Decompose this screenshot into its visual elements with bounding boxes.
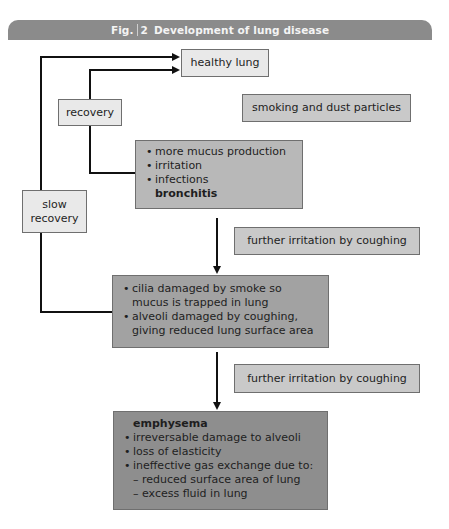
further-irritation-box-2: further irritation by coughing [234,364,420,393]
bronchitis-box: more mucus production irritation infecti… [135,140,303,209]
bronchitis-to-cilia-line [216,218,218,268]
emphysema-subitem: – reduced surface area of lung [124,473,321,487]
figure-label: Fig. [111,24,134,36]
arrow-to-cilia [213,266,221,274]
recovery-box: recovery [58,99,122,126]
cilia-item: alveoli damaged by coughing, giving redu… [123,310,320,338]
bronchitis-item: infections [146,173,302,187]
arrow-to-emphysema [213,402,221,410]
bronchitis-item: irritation [146,159,302,173]
slow-recovery-line2: recovery [30,212,78,226]
smoking-label: smoking and dust particles [252,101,401,115]
smoking-box: smoking and dust particles [242,94,411,122]
slow-recovery-connector-bottom [40,311,112,313]
figure-title: Development of lung disease [154,24,329,36]
healthy-lung-box: healthy lung [181,49,269,77]
recovery-connector-vertical-upper [89,69,91,99]
bronchitis-item: more mucus production [146,145,302,159]
further-irritation-label-2: further irritation by coughing [247,372,407,386]
slow-recovery-connector-vertical-upper [40,57,42,190]
emphysema-list: irreversable damage to alveoli loss of e… [124,431,321,501]
slow-recovery-connector-top [40,56,173,58]
emphysema-item: ineffective gas exchange due to: [124,459,321,473]
cilia-to-emphysema-line [216,352,218,404]
further-irritation-label-1: further irritation by coughing [247,234,407,248]
cilia-item: cilia damaged by smoke so mucus is trapp… [123,282,282,310]
figure-number: 2 [137,24,148,36]
recovery-connector-top [89,69,173,71]
emphysema-item: loss of elasticity [124,445,321,459]
emphysema-subitem: – excess fluid in lung [124,487,321,501]
figure-title-bar: Fig. 2 Development of lung disease [8,20,432,40]
healthy-lung-label: healthy lung [191,56,260,70]
emphysema-title: emphysema [124,417,321,431]
cilia-list: cilia damaged by smoke so mucus is trapp… [123,282,320,338]
recovery-connector-vertical-lower [89,126,91,174]
emphysema-box: emphysema irreversable damage to alveoli… [113,411,328,510]
bronchitis-title: bronchitis [146,187,302,201]
slow-recovery-line1: slow [42,198,67,212]
bronchitis-list: more mucus production irritation infecti… [146,145,302,187]
further-irritation-box-1: further irritation by coughing [234,227,420,255]
recovery-label: recovery [66,106,114,120]
cilia-box: cilia damaged by smoke so mucus is trapp… [112,275,329,348]
slow-recovery-connector-vertical-lower [40,233,42,313]
arrow-to-healthy-lung-2 [172,66,180,74]
recovery-connector-bottom [89,172,135,174]
slow-recovery-box: slow recovery [22,190,87,233]
arrow-to-healthy-lung-1 [172,53,180,61]
emphysema-item: irreversable damage to alveoli [124,431,321,445]
